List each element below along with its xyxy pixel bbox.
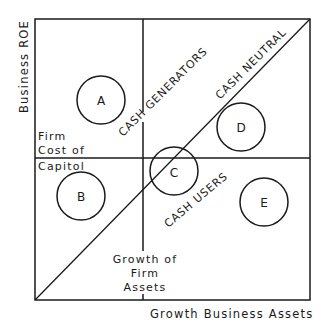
cost-of-capital-label: Firm Cost of Capitol	[38, 130, 85, 173]
business-d-label: D	[236, 121, 245, 135]
business-e: E	[240, 178, 288, 226]
x-axis-label: Growth Business Assets	[150, 307, 313, 321]
business-e-label: E	[260, 196, 268, 210]
y-axis-label: Business ROE	[17, 20, 31, 113]
business-b-label: B	[77, 190, 85, 204]
cost-of-capital-label-line-2: Cost of	[38, 144, 85, 157]
region-label-cash-generators: CASH GENERATORS	[116, 45, 210, 139]
business-c: C	[150, 147, 198, 195]
region-label-cash-neutral: CASH NEUTRAL	[213, 26, 289, 102]
firm-growth-label-line-3: Assets	[124, 281, 167, 294]
business-b: B	[57, 172, 105, 220]
firm-growth-label: Growth of Firm Assets	[113, 253, 178, 294]
cash-generation-matrix: A B C D E CASH GENERATORS CASH NEUTRAL C…	[0, 0, 328, 329]
cost-of-capital-label-line-1: Firm	[38, 130, 66, 143]
business-a-label: A	[97, 94, 106, 108]
business-c-label: C	[170, 166, 178, 180]
firm-growth-label-line-1: Growth of	[113, 253, 178, 266]
business-a: A	[77, 76, 125, 124]
cost-of-capital-label-line-3: Capitol	[38, 160, 85, 173]
business-d: D	[217, 103, 265, 151]
firm-growth-label-line-2: Firm	[131, 267, 159, 280]
